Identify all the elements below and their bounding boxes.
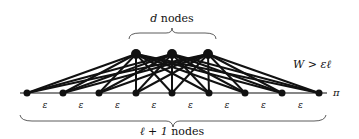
path-node xyxy=(206,90,213,97)
bipartite-edges xyxy=(27,54,319,93)
path-node xyxy=(133,90,140,97)
top-node xyxy=(203,49,213,59)
path-node xyxy=(279,90,286,97)
path-label: π xyxy=(332,87,340,98)
edge-weight-label: ε xyxy=(225,100,230,110)
path-node xyxy=(242,90,249,97)
edge-weight-label: ε xyxy=(152,100,157,110)
path-node xyxy=(24,90,31,97)
edge-weight-label: ε xyxy=(79,100,84,110)
top-label: d nodes xyxy=(150,12,194,25)
edge-weight-label: ε xyxy=(115,100,120,110)
complete-bipartite-diagram: εεεεεεεε d nodes ℓ + 1 nodes W > εℓ π xyxy=(0,0,359,139)
weight-label: W > εℓ xyxy=(293,58,331,71)
top-node xyxy=(167,49,177,59)
edge xyxy=(208,54,282,93)
path-node xyxy=(316,90,323,97)
edge xyxy=(208,54,209,93)
edge xyxy=(27,54,172,93)
path-node xyxy=(169,90,176,97)
edge-labels: εεεεεεεε xyxy=(43,100,304,110)
top-brace xyxy=(129,28,216,39)
edge-weight-label: ε xyxy=(188,100,193,110)
bottom-label: ℓ + 1 nodes xyxy=(140,125,205,138)
edge-weight-label: ε xyxy=(43,100,48,110)
edge-weight-label: ε xyxy=(298,100,303,110)
edge-weight-label: ε xyxy=(261,100,266,110)
path-node xyxy=(60,90,67,97)
path-node xyxy=(96,90,103,97)
top-node xyxy=(131,49,141,59)
